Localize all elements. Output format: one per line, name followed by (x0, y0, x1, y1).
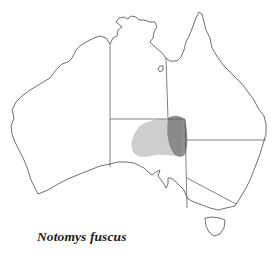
australia-outline (11, 12, 266, 236)
species-label: Notomys fuscus (37, 229, 127, 245)
australia-distribution-map (0, 0, 278, 260)
